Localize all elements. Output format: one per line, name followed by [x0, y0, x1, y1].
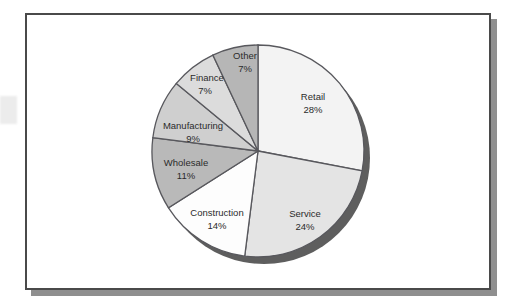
slice-label-value-other: 7% [238, 63, 252, 74]
slice-label-name-other: Other [233, 50, 257, 61]
slice-label-value-construction: 14% [207, 220, 227, 231]
slice-label-name-service: Service [289, 208, 321, 219]
pie-chart[interactable]: Retail28%Service24%Construction14%Wholes… [27, 15, 489, 288]
slice-label-value-service: 24% [295, 221, 315, 232]
scan-artifact [0, 96, 17, 124]
slice-label-value-retail: 28% [303, 104, 323, 115]
slice-label-name-retail: Retail [301, 91, 325, 102]
figure-frame: Retail28%Service24%Construction14%Wholes… [25, 13, 491, 290]
slice-label-name-finance: Finance [190, 72, 224, 83]
slice-label-value-wholesale: 11% [177, 170, 196, 181]
pie-chart-svg[interactable]: Retail28%Service24%Construction14%Wholes… [27, 15, 489, 288]
slice-label-name-construction: Construction [190, 207, 243, 218]
slice-label-name-wholesale: Wholesale [164, 157, 208, 168]
slice-label-name-manufacturing: Manufacturing [163, 120, 223, 131]
slice-label-value-finance: 7% [198, 85, 212, 96]
pie-slices[interactable] [152, 45, 364, 257]
pie-slice-service[interactable] [245, 151, 362, 257]
slice-label-value-manufacturing: 9% [186, 133, 200, 144]
